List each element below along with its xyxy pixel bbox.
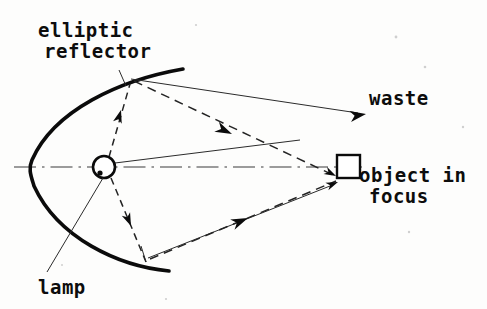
label-reflector: reflector xyxy=(44,40,151,62)
label-focus: focus xyxy=(369,185,429,207)
lamp-marker xyxy=(93,156,115,178)
label-elliptic: elliptic xyxy=(38,19,134,41)
object-in-focus-square xyxy=(337,155,360,178)
lamp-circle xyxy=(93,156,115,178)
lamp-filament-dot xyxy=(97,170,102,175)
label-waste: waste xyxy=(369,87,429,109)
label-object-in: object in xyxy=(359,164,466,186)
diagram-canvas: elliptic reflector waste object in focus… xyxy=(0,0,487,309)
elliptic-reflector-diagram: elliptic reflector waste object in focus… xyxy=(0,0,487,309)
label-lamp: lamp xyxy=(38,276,86,298)
